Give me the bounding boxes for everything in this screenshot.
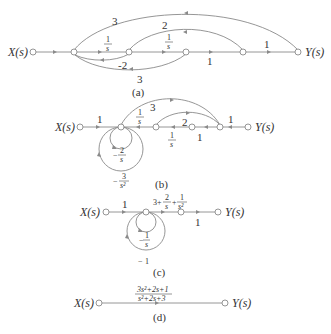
arrow-c-selfloop-outer	[125, 234, 129, 239]
arrow-a-feedback-inner	[100, 58, 104, 62]
gain-a-feedback-outer: 3	[137, 73, 143, 85]
node-b-output	[245, 124, 251, 130]
arrow-b-selfloop-outer	[97, 152, 101, 157]
gain-b-selfloop-inner-sign: −	[113, 151, 118, 160]
gain-b-selfloop-outer-den: s²	[120, 181, 126, 190]
node-c-output	[215, 209, 221, 215]
node-a-1	[71, 49, 77, 55]
arrow-a-n3-n4	[209, 50, 213, 54]
gain-b-n2-n3-num: 1	[170, 131, 174, 140]
gain-d-tf-num: 3s²+2s+1	[136, 285, 168, 294]
arrow-b-top-inner	[186, 111, 190, 115]
gain-b-n4-out: 1	[228, 113, 234, 125]
caption-d: (d)	[153, 311, 166, 324]
node-b-1	[118, 124, 124, 130]
gain-c-selfloop-inner-num: 1	[145, 231, 149, 240]
panel-c: X(s) Y(s) 1 3+ 2 s + 1 s² 1 − 1 s − 1 (c…	[79, 193, 244, 279]
signal-flow-diagrams: X(s) Y(s) 3 2 1 s 1 s 1 1 -2 3 (a)	[0, 0, 331, 334]
gain-a-n2-n3-den: s	[167, 42, 170, 51]
label-c-input: X(s)	[79, 205, 100, 219]
label-b-output: Y(s)	[255, 120, 274, 134]
gain-c-selfloop-inner-sign: −	[139, 236, 144, 245]
arrow-b-in-n1	[96, 125, 100, 129]
label-a-output: Y(s)	[305, 45, 324, 59]
node-d-output	[222, 300, 228, 306]
gain-b-top-inner: 2	[182, 116, 188, 128]
gain-b-in-n1: 1	[97, 113, 103, 125]
gain-a-top-outer: 3	[112, 15, 118, 27]
gain-c-forward-b-den: s	[165, 202, 168, 211]
gain-b-n3-n4: 1	[197, 131, 203, 143]
gain-a-n1-n2-num: 1	[106, 35, 110, 44]
gain-b-selfloop-inner-num: 2	[120, 146, 124, 155]
arrow-a-in-n1	[53, 50, 57, 54]
node-d-input	[96, 300, 102, 306]
arrow-a-n2-n3	[162, 50, 166, 54]
panel-a: X(s) Y(s) 3 2 1 s 1 s 1 1 -2 3 (a)	[7, 11, 324, 99]
arrow-a-feedback-outer	[129, 67, 133, 71]
gain-a-n4-out: 1	[264, 38, 270, 50]
arrow-b-n4-out	[228, 125, 232, 129]
label-d-output: Y(s)	[232, 296, 251, 310]
gain-b-selfloop-inner-den: s	[120, 155, 123, 164]
gain-a-n2-n3-num: 1	[167, 33, 171, 42]
node-c-input	[103, 209, 109, 215]
gain-c-selfloop-outer-sign: −	[138, 257, 143, 266]
edge-a-feedback-outer	[75, 54, 186, 70]
gain-a-n1-n2-den: s	[106, 44, 109, 53]
label-d-input: X(s)	[73, 296, 94, 310]
edge-b-top-inner	[156, 112, 220, 125]
gain-c-n2-out: 1	[195, 216, 201, 228]
node-a-4	[240, 49, 246, 55]
node-b-4	[217, 124, 223, 130]
gain-c-forward-a: 3+	[153, 198, 162, 207]
node-c-1	[143, 209, 149, 215]
gain-b-n2-n3-den: s	[170, 140, 173, 149]
edge-b-top-outer	[121, 99, 220, 125]
gain-a-feedback-inner: -2	[118, 59, 127, 71]
node-a-input	[30, 49, 36, 55]
arrow-c-n2-out	[196, 210, 200, 214]
panel-d: X(s) Y(s) 3s²+2s+1 s²+2s+3 (d)	[73, 285, 251, 324]
node-b-3	[189, 124, 195, 130]
panel-b: X(s) Y(s) 1 3 2 1 s 1 s 1 1 − 2 s − 3 s²…	[54, 98, 274, 191]
arrow-a-n4-out	[267, 50, 271, 54]
gain-a-top-inner: 2	[162, 19, 168, 31]
gain-d-tf-den: s²+2s+3	[138, 294, 165, 303]
gain-a-n3-n4: 1	[207, 55, 213, 67]
caption-b: (b)	[155, 178, 168, 191]
node-a-2	[126, 49, 132, 55]
gain-b-n1-n2-num: 1	[138, 108, 142, 117]
gain-b-top-outer: 3	[150, 101, 156, 113]
arrow-b-n2-n3	[171, 125, 175, 129]
gain-c-forward-c-den: s²	[178, 202, 184, 211]
gain-c-selfloop-inner-den: s	[145, 240, 148, 249]
caption-c: (c)	[153, 266, 166, 279]
caption-a: (a)	[132, 86, 145, 99]
gain-c-forward-plus: +	[172, 198, 177, 207]
arrow-a-n1-n2	[98, 50, 102, 54]
gain-b-selfloop-outer-num: 3	[122, 172, 126, 181]
node-a-output	[295, 49, 301, 55]
arrow-a-top-inner	[183, 30, 187, 34]
node-b-2	[153, 124, 159, 130]
label-b-input: X(s)	[54, 120, 75, 134]
gain-c-forward-c-num: 1	[180, 193, 184, 202]
gain-c-forward-b-num: 2	[165, 193, 169, 202]
arrow-b-n3-n4	[204, 125, 208, 129]
label-c-output: Y(s)	[225, 205, 244, 219]
gain-b-n1-n2-den: s	[138, 117, 141, 126]
node-b-input	[77, 124, 83, 130]
label-a-input: X(s)	[7, 45, 28, 59]
gain-c-selfloop-outer-num: 1	[145, 257, 149, 266]
gain-b-selfloop-outer-sign: −	[113, 177, 118, 186]
node-a-3	[183, 49, 189, 55]
arrow-c-in-n1	[122, 210, 126, 214]
gain-c-in-n1: 1	[122, 198, 128, 210]
